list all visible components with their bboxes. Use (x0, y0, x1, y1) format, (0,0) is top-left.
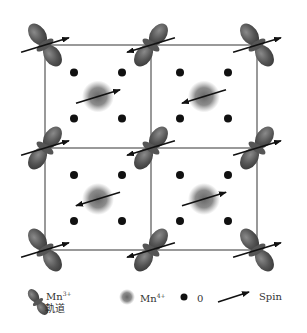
legend-o-icon (181, 294, 188, 301)
oxygen-dot (118, 69, 126, 77)
oxygen-dot (118, 217, 126, 225)
oxygen-dot (224, 171, 232, 179)
legend-mn4-icon (119, 289, 135, 305)
legend-mn4-label: Mn4+ (140, 293, 166, 304)
legend-spin-icon (218, 292, 249, 302)
oxygen-dot (224, 69, 232, 77)
legend-spin-label: Spin (259, 292, 282, 302)
legend-mn3-label: Mn3+ (46, 291, 72, 302)
oxygen-dot (176, 69, 184, 77)
mn4-site (76, 183, 120, 215)
oxygen-dot (176, 171, 184, 179)
legend-o-label: 0 (197, 294, 203, 304)
orbital-order-diagram (0, 0, 307, 333)
oxygen-dot (224, 217, 232, 225)
mn4-site (182, 81, 226, 113)
legend-mn4-text: Mn (140, 293, 157, 304)
legend-mn3-charge: 3+ (63, 290, 72, 297)
oxygen-dot (70, 171, 78, 179)
oxygen-dot (70, 115, 78, 123)
oxygen-dot (70, 69, 78, 77)
oxygen-dot (176, 115, 184, 123)
legend-mn3-sub: 軌道 (45, 304, 65, 314)
oxygen-dot (118, 171, 126, 179)
oxygen-dot (224, 115, 232, 123)
oxygen-dot (118, 115, 126, 123)
legend-mn4-charge: 4+ (157, 292, 166, 299)
oxygen-dot (70, 217, 78, 225)
legend-mn3-text: Mn (46, 291, 63, 302)
mn4-site (76, 81, 120, 113)
mn4-site (182, 183, 226, 215)
oxygen-dot (176, 217, 184, 225)
